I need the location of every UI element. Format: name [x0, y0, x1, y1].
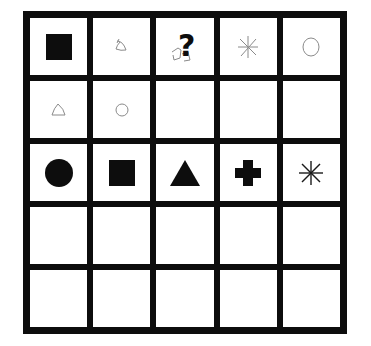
cell-r1-c3[interactable]: ? — [156, 18, 213, 75]
sketch-asterisk-icon — [235, 34, 261, 60]
cell-r5-c5[interactable] — [283, 270, 340, 327]
cell-r5-c4[interactable] — [220, 270, 277, 327]
puzzle-grid: ? — [23, 11, 347, 334]
cell-r3-c4[interactable] — [220, 144, 277, 201]
cell-r3-c5[interactable] — [283, 144, 340, 201]
cell-r3-c1[interactable] — [30, 144, 87, 201]
cell-r4-c3[interactable] — [156, 207, 213, 264]
solid-triangle-icon — [168, 158, 202, 188]
cell-r1-c1[interactable] — [30, 18, 87, 75]
solid-square-icon — [108, 159, 136, 187]
cell-r5-c3[interactable] — [156, 270, 213, 327]
cell-r1-c5[interactable] — [283, 18, 340, 75]
cell-r2-c1[interactable] — [30, 81, 87, 138]
cell-r2-c5[interactable] — [283, 81, 340, 138]
cell-r4-c1[interactable] — [30, 207, 87, 264]
cell-r5-c2[interactable] — [93, 270, 150, 327]
cell-r2-c2[interactable] — [93, 81, 150, 138]
cell-r4-c4[interactable] — [220, 207, 277, 264]
cell-r3-c2[interactable] — [93, 144, 150, 201]
cell-r5-c1[interactable] — [30, 270, 87, 327]
sketch-circle-icon — [300, 35, 322, 59]
sketch-triangle-icon — [49, 102, 69, 118]
cell-r2-c4[interactable] — [220, 81, 277, 138]
solid-circle-icon — [44, 158, 74, 188]
sketch-circle-icon — [113, 101, 131, 119]
sketch-triangle-icon — [112, 37, 132, 57]
cell-r4-c5[interactable] — [283, 207, 340, 264]
cell-r1-c2[interactable] — [93, 18, 150, 75]
solid-square-icon — [45, 33, 73, 61]
solid-asterisk-icon — [298, 160, 324, 186]
cell-r3-c3[interactable] — [156, 144, 213, 201]
cell-r4-c2[interactable] — [93, 207, 150, 264]
question-mark-icon: ? — [178, 31, 195, 61]
solid-cross-icon — [234, 159, 262, 187]
cell-r1-c4[interactable] — [220, 18, 277, 75]
cell-r2-c3[interactable] — [156, 81, 213, 138]
